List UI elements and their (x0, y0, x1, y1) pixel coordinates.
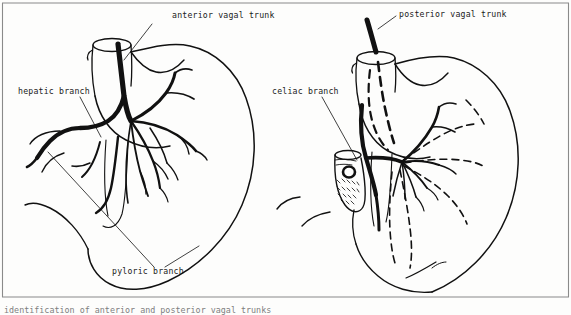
label-celiac-branch: celiac branch (272, 86, 339, 96)
cardiac-notch-posterior (395, 64, 448, 85)
leader-pyloric-right (165, 246, 199, 267)
anterior-trunk-lower (80, 96, 124, 128)
pylorus-anterior (25, 203, 88, 249)
cardiac-notch-anterior (131, 52, 184, 72)
leader-hepatic (80, 97, 101, 137)
lower-fold-posterior (277, 197, 300, 209)
figure-canvas: anterior vagal trunk hepatic branch pylo… (0, 0, 571, 315)
hepatic-branch-tip (27, 158, 37, 167)
posterior-trunk-hidden-course (378, 62, 394, 143)
pylorus-posterior (356, 244, 432, 292)
figure-caption: identification of anterior and posterior… (4, 305, 564, 315)
anatomy-illustration: anterior vagal trunk hepatic branch pylo… (0, 0, 571, 315)
label-posterior-vagal-trunk: posterior vagal trunk (399, 9, 507, 19)
leader-celiac (322, 97, 357, 160)
esophagus-posterior (352, 52, 396, 105)
anterior-stomach-panel (25, 24, 254, 289)
gastric-branches-anterior (126, 69, 207, 203)
posterior-stomach-panel (277, 16, 518, 292)
hepatic-branch-nerve (37, 128, 80, 158)
label-pyloric-branch: pyloric branch (112, 266, 184, 276)
antrum-line-posterior (353, 210, 356, 244)
celiac-branch-lower (376, 195, 379, 230)
pyloric-branch-twig (72, 163, 90, 166)
pyloric-branch-2 (82, 142, 100, 177)
leader-pyloric-left (48, 152, 154, 267)
pyloric-branch-nerve (96, 137, 118, 213)
label-hepatic-branch: hepatic branch (18, 86, 90, 96)
label-anterior-vagal-trunk: anterior vagal trunk (172, 10, 275, 20)
antrum-fold-anterior (42, 153, 64, 172)
cut-vessel-stump (335, 151, 365, 212)
leader-posterior-trunk (378, 16, 396, 29)
duodenum-posterior (302, 212, 330, 226)
posterior-vagal-trunk-nerve (367, 20, 376, 52)
